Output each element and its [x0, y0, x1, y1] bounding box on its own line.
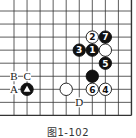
white-stone-2: 2: [86, 31, 98, 43]
figure-caption: 图1-102: [0, 124, 136, 138]
black-stone-7: 7: [99, 31, 111, 43]
black-stone: [86, 70, 98, 82]
black-stone-5: 5: [99, 57, 111, 69]
black-stone-3: 3: [73, 44, 85, 56]
white-stone: [60, 83, 72, 95]
move-number: 7: [102, 32, 108, 42]
black-stone-1: 1: [86, 44, 98, 56]
point-label-b: B: [10, 70, 17, 82]
black-stone: [21, 83, 33, 95]
point-label-c: C: [23, 70, 30, 82]
move-number: 4: [102, 85, 108, 95]
move-number: 3: [76, 45, 82, 55]
move-number: 2: [89, 32, 95, 42]
point-label-a: A: [10, 83, 18, 95]
white-stone: [99, 44, 111, 56]
white-stone-4: 4: [99, 83, 111, 95]
white-stone-6: 6: [86, 83, 98, 95]
go-board-diagram: BCAD 2731564: [0, 0, 136, 124]
move-number: 6: [89, 85, 95, 95]
board-grid: [0, 0, 131, 115]
point-label-d: D: [75, 96, 83, 108]
move-number: 1: [89, 45, 95, 55]
move-number: 5: [102, 59, 108, 69]
